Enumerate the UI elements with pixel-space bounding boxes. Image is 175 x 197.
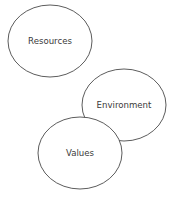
- environment-label: Environment: [97, 100, 153, 110]
- values-label: Values: [66, 148, 95, 158]
- resources-label: Resources: [28, 36, 72, 46]
- diagram-canvas: Resources Environment Values: [0, 0, 175, 197]
- node-resources: Resources: [8, 5, 92, 77]
- node-values: Values: [38, 117, 122, 189]
